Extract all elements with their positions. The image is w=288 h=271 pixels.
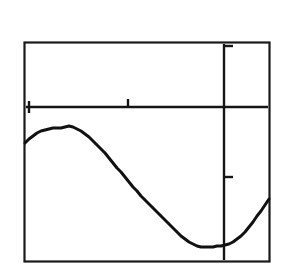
plot-canvas xyxy=(0,0,288,271)
graphing-window-figure: [–2, 0.5] by [–2.2, 1] xyxy=(0,0,288,271)
